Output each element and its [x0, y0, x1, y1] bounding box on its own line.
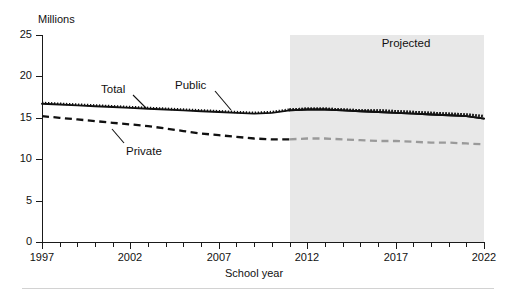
- leader-private: [112, 129, 124, 143]
- chart-figure: Millions Projected 0510152025 1997200220…: [0, 0, 508, 297]
- series-label-total: Total: [101, 83, 125, 96]
- series-label-private: Private: [126, 145, 162, 158]
- leader-total: [133, 95, 146, 108]
- series-label-public: Public: [175, 79, 206, 92]
- annotation-leader-lines: [0, 0, 508, 297]
- footer-divider: [22, 288, 494, 289]
- leader-public: [215, 91, 231, 110]
- x-axis-title: School year: [0, 267, 508, 279]
